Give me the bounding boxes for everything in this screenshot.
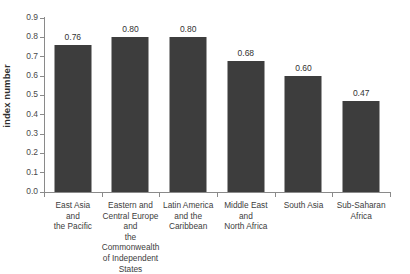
y-axis-tick-mark <box>40 114 44 115</box>
x-axis-category-label-line: the Commonwealth <box>102 232 160 253</box>
y-axis-tick-mark <box>40 95 44 96</box>
bar-value-label: 0.60 <box>295 63 312 73</box>
y-axis-tick-mark <box>40 18 44 19</box>
y-axis-title: index number <box>0 0 14 192</box>
bar-value-label: 0.80 <box>180 24 197 34</box>
x-axis-tick-mark <box>44 192 45 197</box>
bar-slot: 0.80 <box>159 18 217 192</box>
x-axis-category-label-line: Latin America <box>159 200 217 211</box>
bar[interactable] <box>343 101 380 192</box>
x-axis-category-label-line: Africa <box>332 211 390 222</box>
bar-slot: 0.76 <box>44 18 102 192</box>
x-axis-category-label: Eastern andCentral Europe andthe Commonw… <box>102 200 160 274</box>
y-axis-tick-label: 0.5 <box>26 89 38 100</box>
bar-value-label: 0.80 <box>122 24 139 34</box>
bar-slot: 0.47 <box>332 18 390 192</box>
y-axis-tick-mark <box>40 76 44 77</box>
y-axis-tick-mark <box>40 134 44 135</box>
x-axis-category-label-line: Caribbean <box>159 221 217 232</box>
y-axis-tick-label: 0.6 <box>26 70 38 81</box>
x-axis-category-label-line: Middle East <box>217 200 275 211</box>
x-axis-tick-mark <box>102 192 103 197</box>
x-axis-category-label-line: Sub-Saharan <box>332 200 390 211</box>
x-axis-tick-mark <box>275 192 276 197</box>
y-axis-tick-label: 0.7 <box>26 51 38 62</box>
y-axis-tick-mark <box>40 153 44 154</box>
x-axis-category-label-line: Central Europe and <box>102 211 160 232</box>
bar-slot: 0.60 <box>275 18 333 192</box>
bar-slot: 0.80 <box>102 18 160 192</box>
x-axis-tick-mark <box>332 192 333 197</box>
bar[interactable] <box>112 37 149 192</box>
x-axis-category-label-line: East Asia <box>44 200 102 211</box>
x-axis-tick-mark <box>217 192 218 197</box>
x-axis-category-label-line: and <box>44 211 102 222</box>
x-axis-category-label: Sub-SaharanAfrica <box>332 200 390 221</box>
bar[interactable] <box>54 45 91 192</box>
y-axis-tick-label: 0.8 <box>26 31 38 42</box>
bar-value-label: 0.47 <box>353 88 370 98</box>
x-axis-category-label-line: North Africa <box>217 221 275 232</box>
y-axis-tick-label: 0.2 <box>26 147 38 158</box>
x-axis-tick-mark <box>159 192 160 197</box>
y-axis-tick-label: 0.3 <box>26 128 38 139</box>
y-axis-tick-label: 0.9 <box>26 12 38 23</box>
y-axis-tick-mark <box>40 56 44 57</box>
bar-value-label: 0.68 <box>238 48 255 58</box>
x-axis-category-label-line: and the <box>159 211 217 222</box>
bar-value-label: 0.76 <box>65 32 82 42</box>
y-axis-tick-mark <box>40 37 44 38</box>
x-axis-category-label-line: and <box>217 211 275 222</box>
x-axis-category-label-line: of Independent States <box>102 253 160 274</box>
y-axis-tick-mark <box>40 172 44 173</box>
bar[interactable] <box>285 76 322 192</box>
x-axis-category-label: East Asiaandthe Pacific <box>44 200 102 232</box>
x-axis-tick-mark <box>390 192 391 197</box>
bar[interactable] <box>170 37 207 192</box>
plot-area: 0.760.800.800.680.600.47 <box>44 18 390 192</box>
bar-slot: 0.68 <box>217 18 275 192</box>
x-axis-category-label: South Asia <box>275 200 333 211</box>
y-axis-tick-label: 0.1 <box>26 167 38 178</box>
x-axis-category-label-line: Eastern and <box>102 200 160 211</box>
x-axis-category-label-line: the Pacific <box>44 221 102 232</box>
x-axis-category-label: Middle EastandNorth Africa <box>217 200 275 232</box>
bar[interactable] <box>227 61 264 192</box>
y-axis-tick-label: 0.4 <box>26 109 38 120</box>
y-axis-tick-label: 0.0 <box>26 186 38 197</box>
x-axis-category-label: Latin Americaand theCaribbean <box>159 200 217 232</box>
x-axis-category-label-line: South Asia <box>275 200 333 211</box>
